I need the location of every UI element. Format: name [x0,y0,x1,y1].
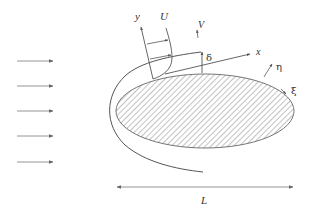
velocity-arrow-lower [150,55,171,59]
x-axis-label: x [255,46,261,57]
velocity-U-label: U [160,10,169,22]
velocity-arrow-upper [147,40,168,44]
elliptical-body [116,74,294,148]
velocity-V-label: V [198,19,206,30]
y-axis [141,27,153,79]
boundary-layer-diagram: y U V δ x η ξ L [0,0,311,211]
xi-label: ξ [291,85,297,96]
thickness-delta-label: δ [206,52,212,63]
eta-normal-arrow [264,64,272,77]
y-axis-label: y [134,10,140,22]
velocity-profile-curve [153,28,172,79]
length-L-label: L [200,194,207,206]
velocity-V-arrow [197,30,198,38]
freestream-arrows [17,61,53,162]
eta-label: η [276,61,282,72]
